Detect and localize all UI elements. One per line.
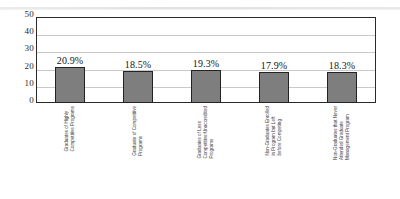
y-axis: 50403020100 xyxy=(8,14,34,104)
x-axis-category-label-line: before Competing xyxy=(277,106,283,156)
y-tick-label: 30 xyxy=(25,44,34,53)
bars-layer: 20.9%18.5%19.3%17.9%18.3% xyxy=(36,17,376,103)
x-axis-category-label: Non-Graduates that NeverAttended Graduat… xyxy=(333,106,351,160)
x-axis-category-slot: Graduates of HighlyCompetitive Programs xyxy=(36,106,104,198)
y-tick-label: 0 xyxy=(29,96,34,105)
bar-slot: 17.9% xyxy=(240,17,308,103)
x-axis-category-label-line: Management Program xyxy=(345,106,351,160)
bar-slot: 18.3% xyxy=(308,17,376,103)
x-axis-category-slot: Non-Graduates that NeverAttended Graduat… xyxy=(308,106,376,198)
x-axis-category-label-line: Programs xyxy=(138,106,144,156)
bar-chart: 50403020100 20.9%18.5%19.3%17.9%18.3% Gr… xyxy=(0,0,400,199)
bar-value-label: 20.9% xyxy=(57,56,83,66)
bar[interactable] xyxy=(191,70,221,103)
y-tick-label: 20 xyxy=(25,62,34,71)
bar[interactable] xyxy=(55,67,85,103)
x-axis-category-label: Graduate of CompetitivePrograms xyxy=(132,106,144,156)
x-axis-category-label: Non-Graduates Enrolledin Program but Lef… xyxy=(265,106,283,156)
bar[interactable] xyxy=(327,72,357,103)
x-axis-category-label-line: Programs xyxy=(209,106,215,159)
x-axis-category-label: Graduates of LessCompetitive/Unaccredite… xyxy=(197,106,215,159)
bar[interactable] xyxy=(259,72,289,103)
x-axis-category-slot: Graduates of LessCompetitive/Unaccredite… xyxy=(172,106,240,198)
x-axis-category-slot: Non-Graduates Enrolledin Program but Lef… xyxy=(240,106,308,198)
bar-slot: 18.5% xyxy=(104,17,172,103)
y-tick-label: 10 xyxy=(25,79,34,88)
y-tick-label: 50 xyxy=(25,10,34,19)
bar-value-label: 17.9% xyxy=(261,61,287,71)
x-axis-category-label-line: Competitive Programs xyxy=(70,106,76,151)
x-axis-category-labels: Graduates of HighlyCompetitive ProgramsG… xyxy=(36,106,376,198)
bar-slot: 19.3% xyxy=(172,17,240,103)
bar-value-label: 18.5% xyxy=(125,60,151,70)
y-tick-label: 40 xyxy=(25,27,34,36)
bar-value-label: 18.3% xyxy=(329,61,355,71)
x-axis-category-slot: Graduate of CompetitivePrograms xyxy=(104,106,172,198)
bar-value-label: 19.3% xyxy=(193,59,219,69)
bar-slot: 20.9% xyxy=(36,17,104,103)
bar[interactable] xyxy=(123,71,153,103)
x-axis-category-label: Graduates of HighlyCompetitive Programs xyxy=(64,106,76,151)
